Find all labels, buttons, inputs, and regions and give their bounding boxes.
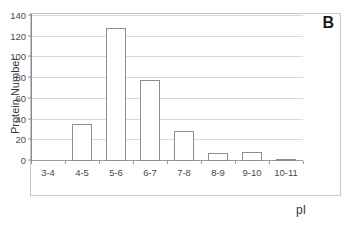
x-tick-mark-2 bbox=[99, 161, 100, 164]
bar-6-7[interactable] bbox=[140, 80, 160, 161]
x-tick-mark-3 bbox=[133, 161, 134, 164]
bar-7-8[interactable] bbox=[174, 131, 194, 161]
bar-5-6[interactable] bbox=[106, 28, 126, 161]
x-category-label-4-5: 4-5 bbox=[75, 167, 89, 179]
y-tick-label-60: 60 bbox=[15, 93, 26, 102]
bar-slot-4-5 bbox=[65, 15, 99, 161]
x-tick-mark-4 bbox=[167, 161, 168, 164]
y-tick-label-20: 20 bbox=[15, 135, 26, 144]
x-axis-title: pI bbox=[296, 203, 306, 217]
bar-slot-8-9 bbox=[201, 15, 235, 161]
y-tick-label-120: 120 bbox=[10, 31, 26, 40]
x-tick-mark-7 bbox=[269, 161, 270, 164]
x-axis-tick-marks bbox=[31, 161, 303, 165]
x-tick-mark-1 bbox=[65, 161, 66, 164]
y-tick-label-0: 0 bbox=[21, 156, 26, 165]
x-category-label-10-11: 10-11 bbox=[274, 167, 298, 179]
y-tick-label-80: 80 bbox=[15, 73, 26, 82]
bar-8-9[interactable] bbox=[208, 153, 228, 161]
x-tick-mark-6 bbox=[235, 161, 236, 164]
x-category-label-9-10: 9-10 bbox=[242, 167, 261, 179]
x-category-label-8-9: 8-9 bbox=[211, 167, 225, 179]
bar-9-10[interactable] bbox=[242, 152, 262, 161]
bar-slot-7-8 bbox=[167, 15, 201, 161]
y-tick-label-40: 40 bbox=[15, 114, 26, 123]
panel-label: B bbox=[322, 15, 334, 31]
bar-slot-9-10 bbox=[235, 15, 269, 161]
y-tick-label-100: 100 bbox=[10, 52, 26, 61]
x-tick-mark-5 bbox=[201, 161, 202, 164]
x-category-label-7-8: 7-8 bbox=[177, 167, 191, 179]
figure-panel-b: B Protein Number 020406080100120140 3-44… bbox=[0, 0, 351, 231]
y-tick-label-140: 140 bbox=[10, 11, 26, 20]
bars-layer bbox=[31, 15, 303, 161]
x-category-label-6-7: 6-7 bbox=[143, 167, 157, 179]
bar-4-5[interactable] bbox=[72, 124, 92, 161]
x-category-label-3-4: 3-4 bbox=[41, 167, 55, 179]
y-axis-tick-labels: 020406080100120140 bbox=[0, 15, 28, 160]
bar-slot-3-4 bbox=[31, 15, 65, 161]
x-axis-category-labels: 3-44-55-66-77-88-99-1010-11 bbox=[31, 167, 303, 181]
bar-slot-6-7 bbox=[133, 15, 167, 161]
x-category-label-5-6: 5-6 bbox=[109, 167, 123, 179]
bar-slot-10-11 bbox=[269, 15, 303, 161]
bar-slot-5-6 bbox=[99, 15, 133, 161]
x-tick-mark-end bbox=[303, 161, 304, 164]
x-tick-mark-0 bbox=[31, 161, 32, 164]
